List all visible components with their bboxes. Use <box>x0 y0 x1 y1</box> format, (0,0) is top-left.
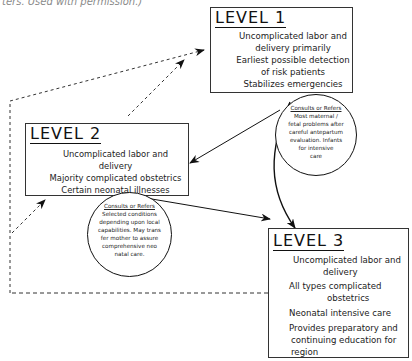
level2-consult-line: depending upon local <box>88 218 171 226</box>
level1-box: LEVEL 1 Uncomplicated labor and delivery… <box>210 7 353 93</box>
level1-consult-heading: Consults or Refers <box>276 104 356 112</box>
level3-item: continuing education for <box>289 334 409 346</box>
dashed-arrow-to-level2-from-left <box>12 200 45 233</box>
level3-item: Uncomplicated labor and <box>289 254 409 266</box>
level1-consult-line: for intensive <box>276 144 356 152</box>
level2-item: delivery <box>43 160 188 172</box>
level3-item: All types complicated <box>289 280 409 292</box>
level2-consult-line: comprehensive neo <box>88 242 171 250</box>
dashed-arrow-to-level1-from-left <box>10 50 204 101</box>
level1-title: LEVEL 1 <box>215 9 286 28</box>
dashed-arrow-level2-to-level1 <box>128 60 184 116</box>
level2-item: Majority complicated obstetrics <box>43 172 188 184</box>
level2-consult-circle: Consults or Refers Selected conditions d… <box>87 192 172 277</box>
level1-consult-line: Most maternal / <box>276 112 356 120</box>
level2-consult-line: fer mother to assure <box>88 234 171 242</box>
level3-items: Uncomplicated labor and delivery All typ… <box>289 254 409 358</box>
level1-item: Uncomplicated labor and <box>233 30 353 42</box>
level2-consult-line: capabilities. May trans <box>88 226 171 234</box>
level1-item: Earliest possible detection <box>233 54 353 66</box>
level1-consult-circle: Consults or Refers Most maternal / fetal… <box>275 94 357 176</box>
level1-consult-line: care <box>276 152 356 160</box>
level2-items: Uncomplicated labor and delivery Majorit… <box>43 148 188 196</box>
level3-item: region <box>289 346 409 358</box>
level2-title: LEVEL 2 <box>30 125 101 144</box>
level2-consult-heading: Consults or Refers <box>88 202 171 210</box>
level2-box: LEVEL 2 Uncomplicated labor and delivery… <box>25 123 189 196</box>
level2-consult-line: natal care. <box>88 250 171 258</box>
level1-item: delivery primarily <box>233 42 353 54</box>
level3-item: Neonatal intensive care <box>289 307 409 319</box>
level1-consult-line: fetal problems after <box>276 120 356 128</box>
level3-item: obstetrics <box>289 292 409 304</box>
level2-item: Uncomplicated labor and <box>43 148 188 160</box>
level3-title: LEVEL 3 <box>273 232 344 251</box>
level1-item: Stabilizes emergencies <box>233 78 353 90</box>
level1-item: of risk patients <box>233 66 353 78</box>
level1-items: Uncomplicated labor and delivery primari… <box>233 30 353 90</box>
level2-consult-line: Selected conditions <box>88 210 171 218</box>
level1-consult-line: evaluation. Infants <box>276 136 356 144</box>
level1-consult-line: careful antepartum <box>276 128 356 136</box>
level3-item: delivery <box>289 266 409 278</box>
level3-box: LEVEL 3 Uncomplicated labor and delivery… <box>268 228 409 358</box>
level3-item: Provides preparatory and <box>289 322 409 334</box>
arrow-level1-to-level2 <box>190 110 280 163</box>
